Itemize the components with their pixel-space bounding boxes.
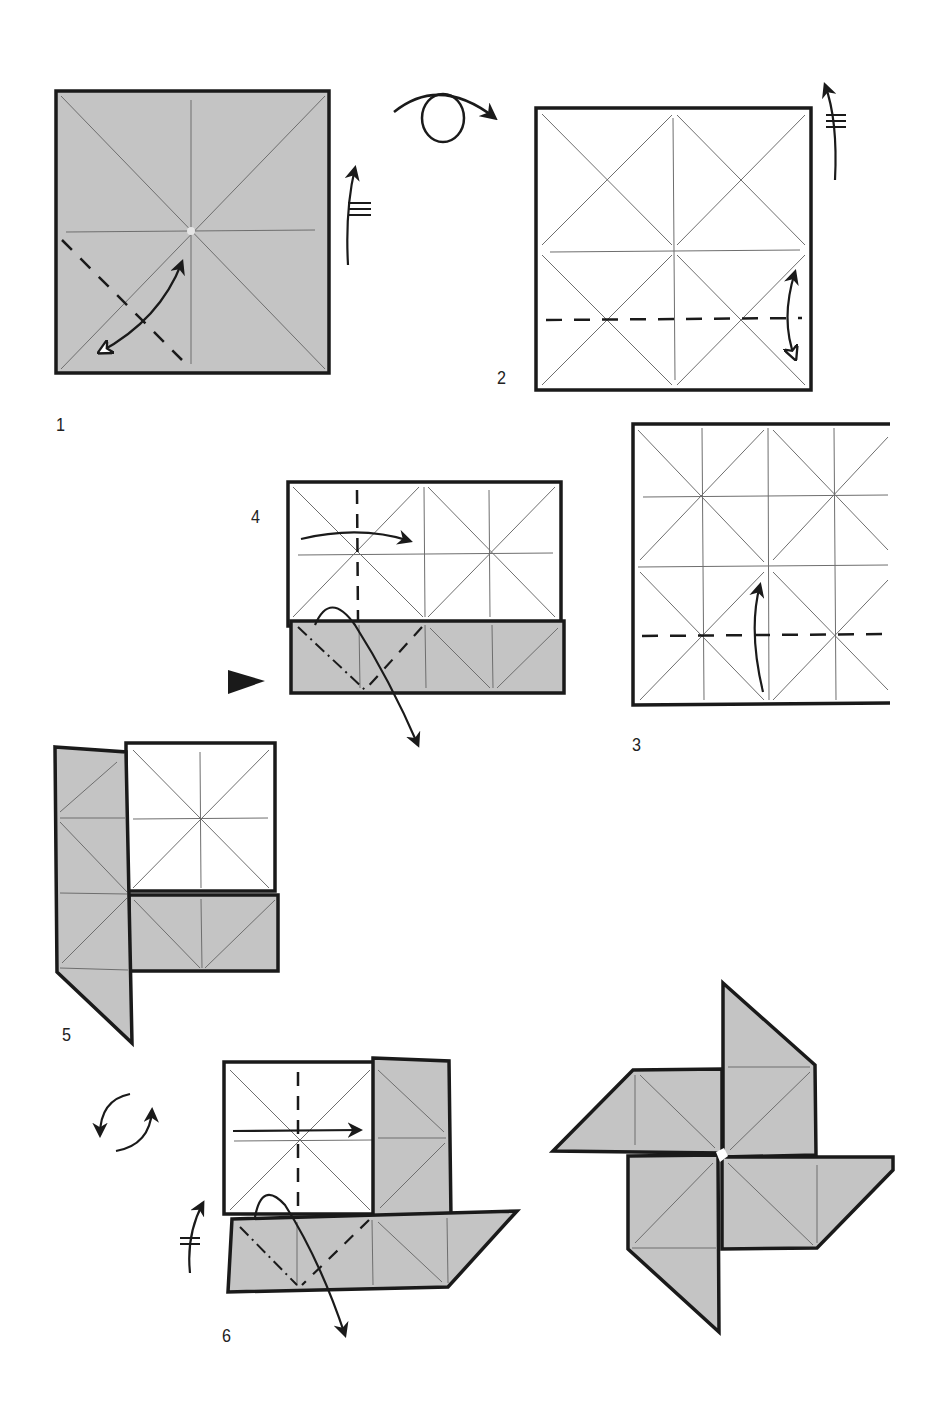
fold-arrow bbox=[233, 1130, 360, 1131]
step-4-diagram bbox=[228, 482, 564, 745]
step-2-diagram bbox=[394, 85, 846, 390]
view-direction-icon bbox=[228, 670, 265, 694]
step-3-diagram bbox=[633, 424, 890, 705]
step-1-diagram bbox=[56, 91, 371, 373]
finished-pinwheel bbox=[553, 983, 893, 1332]
step-3-label: 3 bbox=[632, 734, 641, 756]
step-6-diagram bbox=[100, 1058, 517, 1335]
crease-marks-icon bbox=[348, 203, 371, 215]
crease-marks-icon bbox=[826, 115, 846, 127]
rotate-icon bbox=[100, 1094, 130, 1135]
turn-over-icon bbox=[394, 95, 495, 118]
step-1-label: 1 bbox=[56, 414, 65, 436]
step-5-diagram bbox=[55, 743, 278, 1043]
turn-over-arrow bbox=[347, 168, 355, 265]
turn-over-arrow bbox=[825, 85, 836, 180]
step-6-label: 6 bbox=[222, 1325, 231, 1347]
step-4-label: 4 bbox=[251, 506, 260, 528]
step-5-label: 5 bbox=[62, 1024, 71, 1046]
diagram-canvas bbox=[0, 0, 943, 1405]
step-2-label: 2 bbox=[497, 367, 506, 389]
center-point bbox=[187, 227, 195, 235]
